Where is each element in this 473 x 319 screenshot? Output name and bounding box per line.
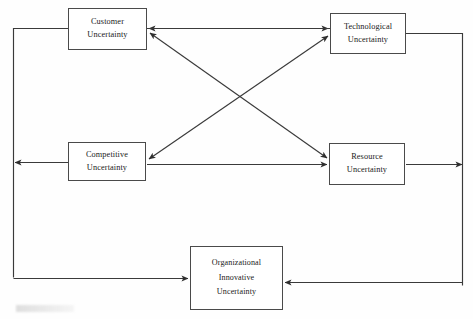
node-label-line: Uncertainty <box>87 162 127 175</box>
node-label-line: Innovative <box>219 271 255 286</box>
node-label-line: Technological <box>344 21 392 34</box>
node-label-line: Organizational <box>212 256 261 271</box>
node-label-line: Uncertainty <box>87 29 127 42</box>
connector-outer-right-bus <box>406 34 463 286</box>
node-competitive-uncertainty[interactable]: Competitive Uncertainty <box>68 142 146 181</box>
node-label-line: Uncertainty <box>217 285 256 300</box>
node-label-line: Customer <box>91 16 124 29</box>
diagram-canvas: Customer Uncertainty Technological Uncer… <box>0 0 473 319</box>
connector-technological-competitive <box>149 36 328 159</box>
node-customer-uncertainty[interactable]: Customer Uncertainty <box>68 8 147 50</box>
connector-outer-left-bus <box>14 29 331 278</box>
node-label-line: Uncertainty <box>348 34 388 47</box>
node-resource-uncertainty[interactable]: Resource Uncertainty <box>329 143 405 185</box>
connector-customer-resource <box>150 33 327 158</box>
node-label-line: Resource <box>351 151 383 164</box>
node-organizational-innovative-uncertainty[interactable]: Organizational Innovative Uncertainty <box>190 246 283 310</box>
scan-artifact-smudge <box>16 305 74 312</box>
node-label-line: Competitive <box>86 149 128 162</box>
node-label-line: Uncertainty <box>347 164 387 177</box>
node-technological-uncertainty[interactable]: Technological Uncertainty <box>330 13 406 54</box>
